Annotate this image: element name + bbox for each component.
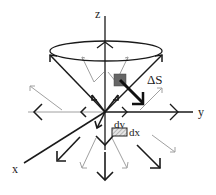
z-axis-label: z <box>95 7 100 21</box>
x-axis <box>24 112 105 163</box>
y-axis-label: y <box>198 105 204 119</box>
cone-rim <box>50 41 162 61</box>
diagram-canvas: z y x <box>0 0 216 195</box>
z-axis <box>97 16 113 150</box>
dark-field-arrows <box>57 95 160 180</box>
cone-sides <box>50 55 162 112</box>
normal-vector-arrow <box>120 80 143 104</box>
delta-s-label: ΔS <box>147 72 163 87</box>
hatched-area-element <box>112 128 127 136</box>
dx-label: dx <box>129 126 141 138</box>
x-axis-label: x <box>12 162 18 176</box>
